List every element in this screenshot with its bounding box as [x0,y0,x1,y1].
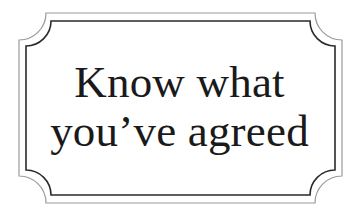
sign-heading-line-1: Know what [0,60,359,105]
sign-heading-line-2: you’ve agreed [0,109,359,154]
